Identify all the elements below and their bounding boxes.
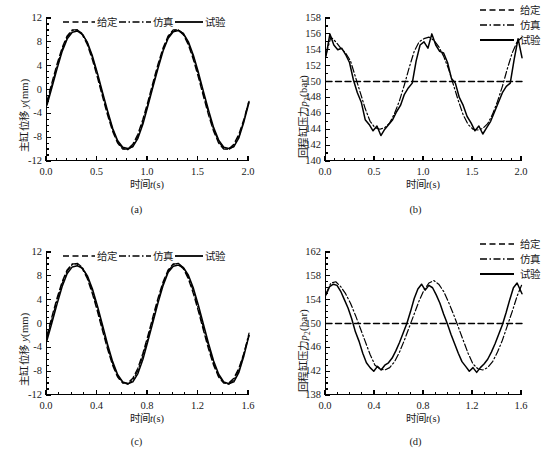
x-tick-label: 1.0 bbox=[416, 167, 429, 178]
x-tick-minor bbox=[459, 392, 460, 395]
y-tick-label: 150 bbox=[291, 76, 321, 87]
x-tick-minor bbox=[177, 158, 178, 161]
y-tick-label: 162 bbox=[291, 247, 321, 258]
x-tick-minor bbox=[496, 392, 497, 395]
y-tick-label: 12 bbox=[12, 13, 42, 24]
x-tick-minor bbox=[227, 158, 228, 161]
y-tick-minor bbox=[325, 311, 328, 312]
y-tick bbox=[46, 160, 51, 161]
subplot-d: 给定 仿真 试验 回程缸压力p2(bar) 时间t(s) bbox=[273, 234, 546, 467]
y-tick bbox=[325, 97, 330, 98]
y-tick-minor bbox=[46, 329, 49, 330]
x-tick-minor bbox=[210, 392, 211, 395]
y-tick-minor bbox=[46, 59, 49, 60]
x-tick-minor bbox=[217, 158, 218, 161]
y-tick-minor bbox=[46, 359, 49, 360]
y-tick-minor bbox=[325, 281, 328, 282]
x-tick-minor bbox=[167, 158, 168, 161]
x-tick bbox=[422, 390, 423, 395]
y-tick bbox=[46, 41, 51, 42]
x-tick-minor bbox=[462, 158, 463, 161]
plot-curves-c bbox=[47, 252, 249, 395]
y-tick bbox=[325, 33, 330, 34]
x-tick bbox=[520, 390, 521, 395]
y-tick bbox=[46, 113, 51, 114]
y-tick-minor bbox=[46, 154, 49, 155]
y-tick bbox=[325, 371, 330, 372]
y-tick bbox=[46, 299, 51, 300]
y-tick-minor bbox=[325, 388, 328, 389]
y-tick-minor bbox=[325, 41, 328, 42]
y-tick bbox=[325, 299, 330, 300]
y-tick-minor bbox=[46, 29, 49, 30]
x-tick-minor bbox=[501, 158, 502, 161]
y-tick-minor bbox=[46, 382, 49, 383]
x-tick-label: 2.0 bbox=[514, 167, 527, 178]
y-tick-minor bbox=[325, 89, 328, 90]
y-tick-minor bbox=[325, 137, 328, 138]
x-tick-minor bbox=[403, 158, 404, 161]
x-tick bbox=[197, 390, 198, 395]
y-tick-label: 146 bbox=[291, 342, 321, 353]
x-tick-minor bbox=[134, 392, 135, 395]
x-tick-minor bbox=[435, 392, 436, 395]
y-tick bbox=[46, 323, 51, 324]
x-tick-label: 0.0 bbox=[39, 167, 52, 178]
y-tick-label: 158 bbox=[291, 13, 321, 24]
x-tick-minor bbox=[344, 158, 345, 161]
y-tick-minor bbox=[325, 257, 328, 258]
y-tick-label: -8 bbox=[12, 132, 42, 143]
y-tick-label: 146 bbox=[291, 108, 321, 119]
x-tick-minor bbox=[337, 392, 338, 395]
x-tick-minor bbox=[71, 392, 72, 395]
subplot-c: 给定 仿真 试验 主缸位移 y(mm) 时间t(s) bbox=[0, 234, 273, 467]
x-tick-minor bbox=[386, 392, 387, 395]
x-axis-title-c: 时间t(s) bbox=[130, 410, 164, 425]
y-tick-minor bbox=[325, 287, 328, 288]
y-tick-minor bbox=[325, 335, 328, 336]
x-tick-minor bbox=[136, 158, 137, 161]
y-tick-label: -12 bbox=[12, 156, 42, 167]
x-tick-label: 0.8 bbox=[416, 401, 429, 412]
y-tick-minor bbox=[325, 57, 328, 58]
y-tick bbox=[325, 323, 330, 324]
y-tick-minor bbox=[325, 293, 328, 294]
y-tick bbox=[325, 17, 330, 18]
y-tick-label: -4 bbox=[12, 108, 42, 119]
y-tick bbox=[325, 160, 330, 161]
x-tick bbox=[373, 390, 374, 395]
y-tick-minor bbox=[46, 311, 49, 312]
y-tick-minor bbox=[325, 105, 328, 106]
x-tick-label: 1.6 bbox=[514, 401, 527, 412]
y-tick-label: 4 bbox=[12, 60, 42, 71]
y-tick-minor bbox=[46, 335, 49, 336]
x-tick-label: 0.5 bbox=[90, 167, 103, 178]
y-tick-minor bbox=[46, 341, 49, 342]
y-tick bbox=[325, 113, 330, 114]
y-tick-minor bbox=[46, 388, 49, 389]
dashed-line-icon bbox=[479, 240, 515, 248]
x-tick-minor bbox=[86, 158, 87, 161]
x-tick-minor bbox=[398, 392, 399, 395]
y-tick-label: 12 bbox=[12, 247, 42, 258]
x-tick-minor bbox=[508, 392, 509, 395]
x-tick-label: 0.8 bbox=[140, 401, 153, 412]
figure-container: 给定 仿真 试验 主缸位移 y(mm) 时间t(s) bbox=[0, 0, 546, 467]
x-tick-minor bbox=[413, 158, 414, 161]
y-tick-label: 154 bbox=[291, 45, 321, 56]
y-tick-minor bbox=[46, 317, 49, 318]
y-tick-minor bbox=[46, 263, 49, 264]
x-tick-minor bbox=[222, 392, 223, 395]
x-tick-minor bbox=[481, 158, 482, 161]
x-tick-minor bbox=[121, 392, 122, 395]
x-tick-minor bbox=[334, 158, 335, 161]
caption-b: (b) bbox=[279, 204, 546, 215]
y-tick-label: -12 bbox=[12, 390, 42, 401]
y-tick bbox=[325, 145, 330, 146]
y-tick bbox=[325, 65, 330, 66]
x-tick-minor bbox=[447, 392, 448, 395]
y-tick-minor bbox=[46, 77, 49, 78]
y-tick bbox=[325, 49, 330, 50]
x-tick-label: 0.0 bbox=[39, 401, 52, 412]
x-axis-title-d: 时间t(s) bbox=[406, 410, 440, 425]
